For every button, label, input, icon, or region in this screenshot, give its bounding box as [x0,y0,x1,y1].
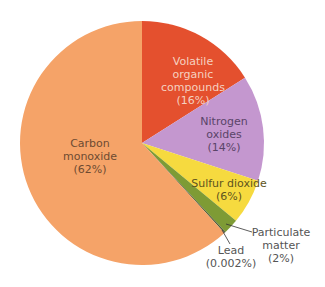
label-pm-line1: Particulate [248,226,314,239]
label-so2: Sulfur dioxide (6%) [188,177,270,203]
label-nox-line1: Nitrogen [192,115,256,128]
label-lead-line1: Lead [203,244,259,257]
label-voc: Volatile organic compounds (16%) [158,55,228,107]
lead-leader-line [222,230,230,244]
label-lead: Lead (0.002%) [203,244,259,270]
label-nox-line3: (14%) [192,141,256,154]
label-nox: Nitrogen oxides (14%) [192,115,256,154]
label-nox-line2: oxides [192,128,256,141]
label-lead-line2: (0.002%) [203,257,259,270]
label-so2-line1: Sulfur dioxide [188,177,270,190]
label-voc-line2: organic [158,68,228,81]
label-voc-line1: Volatile [158,55,228,68]
label-so2-line2: (6%) [188,190,270,203]
label-co-line1: Carbon [52,137,128,150]
label-co-line3: (62%) [52,163,128,176]
label-co: Carbon monoxide (62%) [52,137,128,176]
label-voc-line4: (16%) [158,94,228,107]
label-co-line2: monoxide [52,150,128,163]
label-voc-line3: compounds [158,81,228,94]
